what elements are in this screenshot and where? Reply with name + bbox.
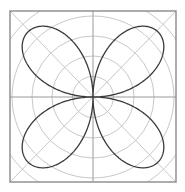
polar-rose-figure: [0, 0, 185, 192]
